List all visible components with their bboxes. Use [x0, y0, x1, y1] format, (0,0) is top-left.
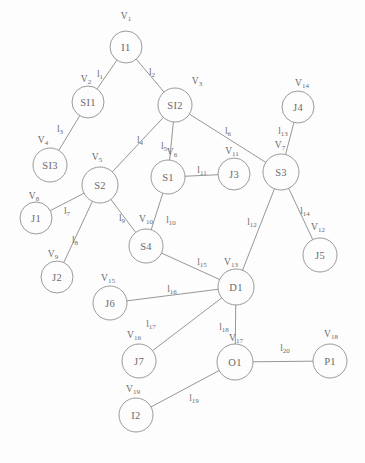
edge-label-l6: l6	[225, 126, 231, 136]
vertex-label-V11: V11	[225, 146, 239, 156]
vertex-label-V18: V18	[324, 329, 338, 339]
vertex-label-V16: V16	[127, 330, 141, 340]
node-circle-S4[interactable]	[129, 229, 163, 263]
edge-l20	[253, 361, 313, 362]
vertex-label-V13: V13	[224, 257, 238, 267]
nodes-group	[20, 31, 347, 432]
node-circle-J2[interactable]	[41, 261, 73, 293]
vertex-label-V4: V4	[38, 135, 48, 145]
node-circle-S1[interactable]	[151, 160, 185, 194]
node-circle-SI1[interactable]	[72, 86, 104, 118]
vertex-label-V1: V1	[121, 11, 131, 21]
edge-l12	[243, 189, 275, 270]
node-circle-J4[interactable]	[282, 91, 314, 123]
edge-label-l13: l13	[278, 126, 288, 136]
vertex-label-V9: V9	[48, 249, 58, 259]
node-circle-J6[interactable]	[93, 286, 127, 320]
edge-label-l20: l20	[280, 343, 290, 353]
node-circle-SI3[interactable]	[33, 148, 67, 182]
node-circle-O1[interactable]	[217, 344, 253, 380]
edge-label-l12: l12	[247, 217, 257, 227]
edge-label-l18: l18	[219, 322, 229, 332]
edge-label-l7: l7	[64, 206, 70, 216]
vertex-label-V2: V2	[81, 74, 91, 84]
node-circle-I2[interactable]	[119, 398, 153, 432]
vertex-label-V7: V7	[275, 140, 285, 150]
edge-label-l10: l10	[166, 215, 176, 225]
vertex-label-V12: V12	[311, 222, 325, 232]
edge-label-l8: l8	[72, 235, 78, 245]
node-circle-J5[interactable]	[303, 238, 337, 272]
node-circle-SI2[interactable]	[158, 88, 192, 122]
node-circle-J7[interactable]	[122, 344, 156, 378]
edge-label-l2: l2	[149, 67, 155, 77]
vertex-label-V19: V19	[126, 384, 140, 394]
diagram-canvas: l1l2l3l4l5l6l7l8l9l10l11l12l13l14l15l16l…	[0, 0, 365, 463]
edge-label-l11: l11	[197, 165, 206, 175]
vertex-label-V8: V8	[29, 191, 39, 201]
edge-label-l19: l19	[189, 393, 199, 403]
node-circle-S2[interactable]	[82, 167, 118, 203]
node-circle-J3[interactable]	[218, 158, 250, 190]
edge-label-l14: l14	[300, 206, 310, 216]
vertex-label-V15: V15	[101, 273, 115, 283]
node-circle-P1[interactable]	[313, 344, 347, 378]
edge-label-l17: l17	[146, 319, 156, 329]
edge-label-l3: l3	[57, 124, 63, 134]
vertex-label-V10: V10	[139, 214, 153, 224]
vertex-label-V17: V17	[229, 333, 243, 343]
vertex-label-V14: V14	[295, 78, 309, 88]
edge-label-l9: l9	[119, 213, 125, 223]
edge-label-l4: l4	[137, 135, 143, 145]
node-circle-D1[interactable]	[218, 269, 254, 305]
vertex-label-V6: V6	[167, 147, 177, 157]
node-circle-I1[interactable]	[110, 31, 142, 63]
vertex-label-V3: V3	[192, 76, 202, 86]
edge-l19	[151, 370, 219, 406]
node-circle-J1[interactable]	[20, 202, 52, 234]
vertex-label-V5: V5	[92, 152, 102, 162]
edge-l15	[161, 253, 219, 279]
edge-label-l15: l15	[197, 257, 207, 267]
edge-label-l1: l1	[97, 69, 103, 79]
edge-l17	[153, 298, 222, 351]
edge-label-l16: l16	[167, 284, 177, 294]
node-circle-S3[interactable]	[263, 154, 299, 190]
